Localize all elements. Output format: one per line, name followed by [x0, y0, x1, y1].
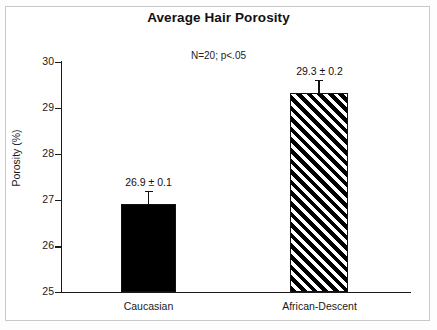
bar-caucasian[interactable] — [121, 204, 176, 292]
y-tick-mark-28 — [55, 154, 61, 155]
y-tick-label-25: 25 — [24, 285, 54, 297]
y-tick-mark-27 — [55, 200, 61, 201]
y-tick-mark-25 — [55, 292, 61, 293]
bar-value-label-african-descent: 29.3 ± 0.2 — [274, 65, 365, 77]
error-bar-stem-african-descent — [318, 80, 319, 94]
y-tick-mark-26 — [55, 246, 61, 247]
chart-title: Average Hair Porosity — [0, 10, 437, 25]
y-tick-label-29: 29 — [24, 101, 54, 113]
y-tick-label-26: 26 — [24, 239, 54, 251]
y-tick-label-27: 27 — [24, 193, 54, 205]
y-tick-mark-29 — [55, 108, 61, 109]
y-tick-mark-30 — [55, 62, 61, 63]
error-bar-stem-caucasian — [148, 191, 149, 205]
bar-value-label-caucasian: 26.9 ± 0.1 — [103, 176, 194, 188]
y-axis-line — [61, 61, 62, 293]
x-axis-line — [61, 292, 411, 293]
y-axis-title: Porosity (%) — [10, 118, 22, 198]
y-tick-label-30: 30 — [24, 55, 54, 67]
chart-subtitle-annotation: N=20; p<.05 — [0, 50, 437, 61]
bar-african-descent[interactable] — [290, 93, 348, 292]
y-tick-label-28: 28 — [24, 147, 54, 159]
x-category-label-caucasian: Caucasian — [103, 300, 194, 312]
chart-page: Average Hair Porosity N=20; p<.05 30 29 … — [0, 0, 437, 330]
error-bar-cap-african-descent — [315, 80, 323, 81]
error-bar-cap-caucasian — [145, 191, 153, 192]
x-category-label-african-descent: African-Descent — [272, 300, 367, 312]
